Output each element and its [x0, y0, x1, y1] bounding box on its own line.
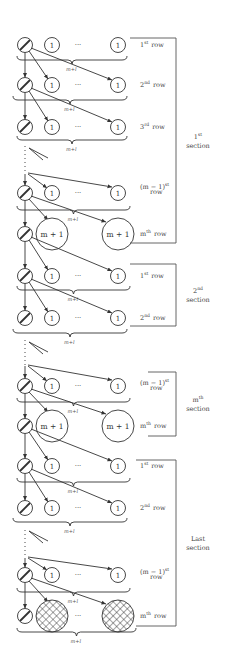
ellipsis: ··· — [75, 504, 82, 512]
node-hatched — [102, 600, 134, 632]
arrow — [28, 365, 112, 380]
brace — [13, 96, 127, 104]
node-one-label: 1 — [50, 124, 54, 132]
brace-label: m+l — [68, 216, 79, 222]
node-one-label: 1 — [116, 463, 120, 471]
ellipsis: ··· — [75, 272, 82, 280]
brace-label: m+l — [66, 66, 77, 72]
node-one: 1 — [45, 501, 60, 516]
section-label: 1st — [194, 132, 202, 141]
node-one-label: 1 — [50, 273, 54, 281]
zero-node-slashed-icon — [18, 609, 33, 624]
zero-node-slashed-icon — [18, 186, 33, 201]
node-one: 1 — [111, 459, 126, 474]
arrow — [28, 557, 112, 569]
section-label-word: section — [186, 544, 210, 552]
row-label: mthrow — [140, 611, 167, 620]
node-one-label: 1 — [50, 82, 54, 90]
row-label: 1strow — [140, 461, 164, 470]
node-one-label: 1 — [50, 42, 54, 50]
node-hatched — [36, 600, 68, 632]
brace-label: m+l — [71, 638, 82, 644]
arrow — [31, 237, 112, 271]
row-label: (m − 1)strow — [140, 182, 169, 196]
brace — [17, 206, 130, 214]
node-one: 1 — [45, 78, 60, 93]
node-one: 1 — [45, 459, 60, 474]
ellipsis: ··· — [75, 314, 82, 322]
row-label: (m − 1)strow — [140, 567, 169, 581]
brace — [17, 588, 130, 596]
ellipsis: ··· — [75, 382, 82, 390]
node-one-label: 1 — [50, 383, 54, 391]
section-bracket — [136, 460, 176, 626]
section-label: 2nd — [193, 286, 203, 295]
brace — [17, 398, 130, 406]
node-one-label: 1 — [50, 463, 54, 471]
node-one-label: 1 — [116, 383, 120, 391]
node-one-label: 1 — [116, 82, 120, 90]
row-label: mthrow — [140, 229, 167, 238]
arrow — [28, 173, 112, 187]
node-one-label: 1 — [116, 505, 120, 513]
zero-node-slashed-icon — [18, 311, 33, 326]
section-label-word: section — [186, 142, 210, 150]
arrow — [29, 472, 48, 502]
node-one: 1 — [111, 38, 126, 53]
brace — [13, 518, 127, 526]
node-one: 1 — [45, 38, 60, 53]
zero-node-slashed-icon — [18, 501, 33, 516]
arrow — [29, 581, 48, 602]
node-one-label: 1 — [50, 315, 54, 323]
section-label: Last — [191, 535, 206, 543]
ellipsis: ··· — [75, 123, 82, 131]
brace-label: m+l — [68, 408, 79, 414]
arrow — [29, 91, 48, 121]
node-one: 1 — [45, 186, 60, 201]
zero-node-slashed-icon — [18, 38, 33, 53]
node-one: 1 — [45, 379, 60, 394]
ellipsis: ··· — [75, 571, 82, 579]
node-one: 1 — [111, 78, 126, 93]
node-one-label: 1 — [116, 42, 120, 50]
node-m-plus-1: m + 1 — [36, 218, 68, 250]
row-label: 2ndrow — [140, 503, 166, 512]
brace — [13, 329, 127, 337]
node-m-plus-1-label: m + 1 — [41, 422, 64, 431]
row-label: (m − 1)strow — [140, 378, 169, 392]
ellipsis: ··· — [75, 612, 82, 620]
brace-label: m+l — [68, 598, 79, 604]
node-one: 1 — [111, 379, 126, 394]
node-one-label: 1 — [50, 572, 54, 580]
zero-node-slashed-icon — [18, 269, 33, 284]
section-row-diagram: 1···11strowm+l1···12ndrowm+l1···13rdrowm… — [0, 0, 225, 668]
zero-node-slashed-icon — [18, 379, 33, 394]
node-one-label: 1 — [116, 572, 120, 580]
node-one-label: 1 — [116, 124, 120, 132]
zero-node-slashed-icon — [18, 419, 33, 434]
zero-node-slashed-icon — [18, 120, 33, 135]
ellipsis: ··· — [75, 189, 82, 197]
row-label: 3rdrow — [140, 122, 165, 131]
node-one-label: 1 — [50, 505, 54, 513]
node-m-plus-1: m + 1 — [102, 218, 134, 250]
row-label: 1strow — [140, 40, 164, 49]
node-one: 1 — [111, 269, 126, 284]
node-one: 1 — [111, 501, 126, 516]
node-one: 1 — [45, 311, 60, 326]
node-one: 1 — [45, 269, 60, 284]
ellipsis: ··· — [75, 462, 82, 470]
brace-label: m+l — [64, 339, 75, 345]
arrow — [29, 282, 48, 312]
node-m-plus-1-label: m + 1 — [107, 422, 130, 431]
row-label: 1strow — [140, 271, 164, 280]
ellipsis: ··· — [75, 41, 82, 49]
zero-node-slashed-icon — [18, 568, 33, 583]
arrow — [31, 429, 112, 461]
arrow — [31, 88, 112, 122]
zero-node-slashed-icon — [18, 227, 33, 242]
node-m-plus-1: m + 1 — [102, 410, 134, 442]
row-label: 2ndrow — [140, 313, 166, 322]
arrow — [28, 558, 47, 570]
zero-node-slashed-icon — [18, 78, 33, 93]
